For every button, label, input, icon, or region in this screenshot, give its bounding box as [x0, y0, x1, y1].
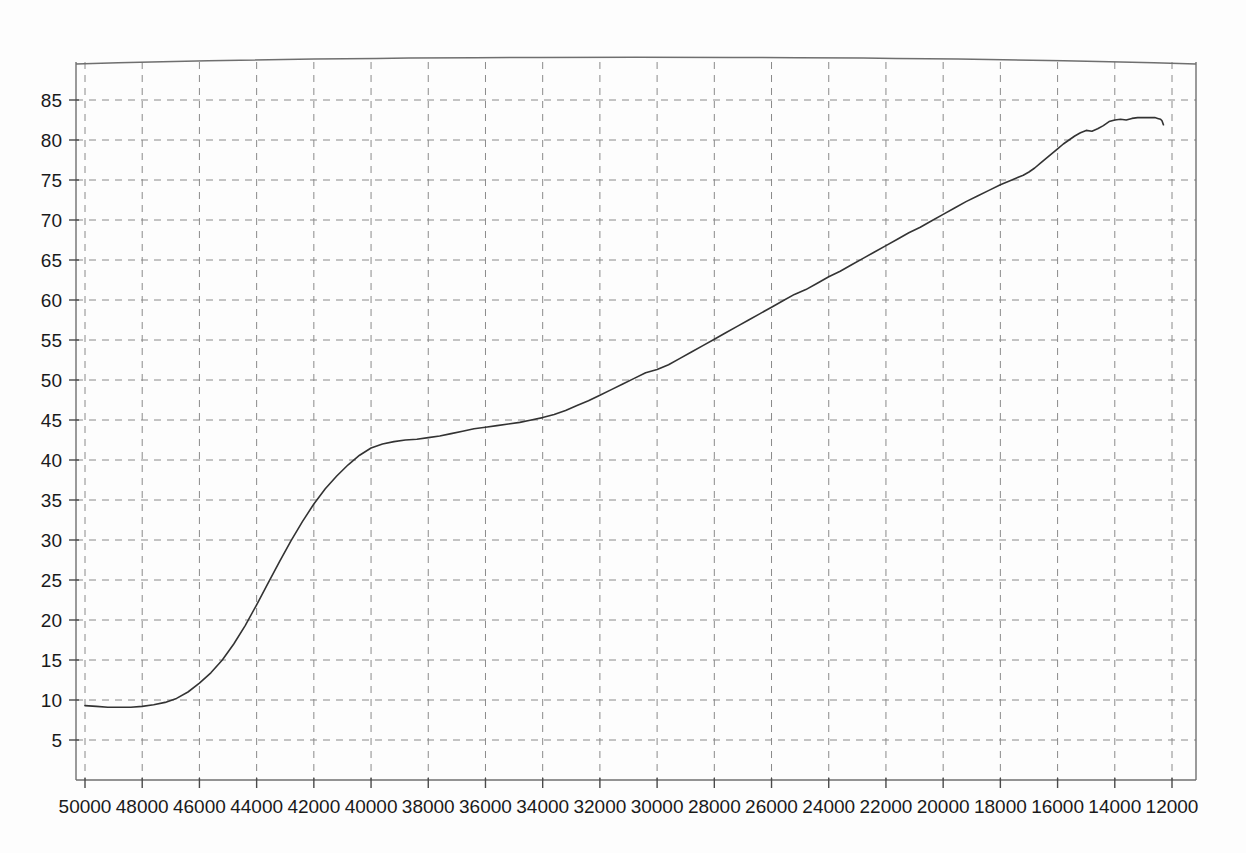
x-axis-tick-label: 24000 — [802, 796, 855, 817]
x-axis-tick-label: 14000 — [1088, 796, 1141, 817]
x-axis-tick-label: 34000 — [516, 796, 569, 817]
x-axis-tick-label: 32000 — [573, 796, 626, 817]
y-axis-tick-label: 40 — [41, 450, 62, 471]
x-axis-tick-label: 48000 — [116, 796, 169, 817]
y-axis-tick-label: 50 — [41, 370, 62, 391]
x-axis-tick-label: 12000 — [1146, 796, 1199, 817]
y-axis-tick-labels: 510152025303540455055606570758085 — [41, 90, 62, 751]
x-axis-tick-label: 28000 — [688, 796, 741, 817]
x-axis-tick-label: 44000 — [230, 796, 283, 817]
y-axis-tick-label: 10 — [41, 690, 62, 711]
y-axis-tick-label: 30 — [41, 530, 62, 551]
x-axis-tick-label: 36000 — [459, 796, 512, 817]
x-axis-tick-label: 38000 — [402, 796, 455, 817]
y-axis-tick-label: 85 — [41, 90, 62, 111]
y-axis-tick-label: 35 — [41, 490, 62, 511]
x-axis-tick-label: 20000 — [917, 796, 970, 817]
y-axis-tick-label: 25 — [41, 570, 62, 591]
x-axis-tick-label: 50000 — [59, 796, 112, 817]
y-axis-tick-label: 80 — [41, 130, 62, 151]
x-axis-tick-label: 16000 — [1031, 796, 1084, 817]
x-axis-tick-label: 42000 — [287, 796, 340, 817]
x-axis-tick-label: 26000 — [745, 796, 798, 817]
chart-container: 510152025303540455055606570758085 500004… — [0, 0, 1246, 853]
y-axis-tick-label: 65 — [41, 250, 62, 271]
x-axis-tick-label: 40000 — [345, 796, 398, 817]
chart-background — [0, 0, 1246, 853]
x-axis-tick-label: 30000 — [631, 796, 684, 817]
x-axis-tick-label: 22000 — [860, 796, 913, 817]
y-axis-tick-label: 75 — [41, 170, 62, 191]
y-axis-tick-label: 20 — [41, 610, 62, 631]
y-axis-tick-label: 15 — [41, 650, 62, 671]
y-axis-tick-label: 55 — [41, 330, 62, 351]
x-axis-tick-label: 46000 — [173, 796, 226, 817]
y-axis-tick-label: 70 — [41, 210, 62, 231]
y-axis-tick-label: 60 — [41, 290, 62, 311]
y-axis-tick-label: 45 — [41, 410, 62, 431]
line-chart: 510152025303540455055606570758085 500004… — [0, 0, 1246, 853]
x-axis-tick-label: 18000 — [974, 796, 1027, 817]
y-axis-tick-label: 5 — [51, 730, 62, 751]
